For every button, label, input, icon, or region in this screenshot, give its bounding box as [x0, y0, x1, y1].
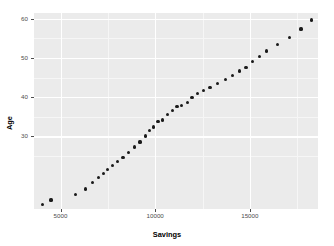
data-point: [97, 176, 100, 179]
gridline-minor-vertical: [203, 13, 204, 209]
data-point: [127, 151, 130, 154]
data-point: [238, 69, 241, 72]
x-axis-tick-label: 15000: [230, 213, 270, 219]
gridline-major-vertical: [250, 13, 251, 209]
y-axis-title: Age: [5, 116, 14, 130]
data-point: [102, 172, 105, 175]
gridline-minor-horizontal: [34, 38, 318, 39]
gridline-minor-vertical: [108, 13, 109, 209]
x-axis-title: Savings: [0, 230, 334, 239]
data-point: [258, 55, 261, 58]
y-axis-tick-label: 50: [0, 55, 28, 61]
data-point: [299, 27, 302, 30]
data-point: [41, 203, 44, 206]
data-point: [251, 60, 254, 63]
gridline-major-vertical: [155, 13, 156, 209]
x-axis-tick-mark: [61, 209, 62, 212]
data-point: [133, 145, 136, 148]
y-axis-tick-mark: [31, 19, 34, 20]
y-axis-tick-label: 30: [0, 133, 28, 139]
gridline-minor-horizontal: [34, 156, 318, 157]
data-point: [84, 187, 87, 190]
data-point: [265, 49, 268, 52]
gridline-major-horizontal: [34, 58, 318, 59]
y-axis-tick-mark: [31, 58, 34, 59]
x-axis-tick-label: 10000: [135, 213, 175, 219]
gridline-minor-horizontal: [34, 117, 318, 118]
data-point: [180, 104, 183, 107]
data-point: [231, 74, 234, 77]
x-axis-tick-mark: [155, 209, 156, 212]
data-point: [171, 109, 174, 112]
data-point: [121, 156, 124, 159]
data-point: [166, 113, 169, 116]
gridline-major-horizontal: [34, 19, 318, 20]
data-point: [74, 193, 77, 196]
gridline-major-horizontal: [34, 136, 318, 137]
x-axis-tick-mark: [250, 209, 251, 212]
data-point: [116, 160, 119, 163]
y-axis-tick-mark: [31, 136, 34, 137]
data-point: [144, 134, 147, 137]
y-axis-tick-label: 60: [0, 16, 28, 22]
data-point: [156, 120, 159, 123]
gridline-major-vertical: [61, 13, 62, 209]
data-point: [138, 140, 141, 143]
scatter-plot-figure: 30405060 50001000015000 Age Savings: [0, 0, 334, 246]
data-point: [244, 66, 247, 69]
data-point: [49, 198, 52, 201]
data-point: [224, 78, 227, 81]
data-point: [216, 82, 219, 85]
y-axis-tick-mark: [31, 97, 34, 98]
x-axis-tick-label: 5000: [41, 213, 81, 219]
plot-panel: [34, 13, 318, 209]
data-point: [186, 101, 189, 104]
y-axis-tick-label: 40: [0, 94, 28, 100]
data-point: [111, 164, 114, 167]
data-point: [148, 129, 151, 132]
data-point: [190, 96, 193, 99]
data-point: [202, 89, 205, 92]
data-point: [91, 181, 94, 184]
data-point: [106, 168, 109, 171]
data-point: [276, 43, 279, 46]
data-point: [196, 92, 199, 95]
gridline-major-horizontal: [34, 97, 318, 98]
data-point: [152, 125, 155, 128]
data-point: [310, 18, 313, 21]
data-point: [208, 86, 211, 89]
data-point: [161, 118, 164, 121]
data-point: [175, 105, 178, 108]
gridline-minor-vertical: [297, 13, 298, 209]
gridline-minor-horizontal: [34, 78, 318, 79]
